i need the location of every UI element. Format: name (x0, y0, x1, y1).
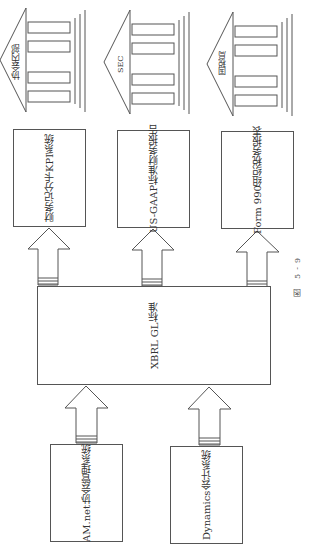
report-box-kpi: 财务记分卡 KPI系统 (13, 129, 86, 227)
institution-label-sec: SEC (113, 52, 127, 76)
hub-box-xbrl-gl: XBRL GL 标准 (37, 286, 271, 385)
report-line1: 财务记分卡 (43, 172, 56, 222)
arrow-icon-source1-to-hub (65, 386, 108, 443)
institution-label-association: 协会内部 (8, 42, 24, 82)
diagram: 协会内部 SEC 国税局 财务记分卡 KPI系统 US-GAAP 标准财务报告 … (0, 0, 313, 549)
institution-text: SEC (114, 55, 127, 72)
source-box-dynamics: Dynamics 会计系统 (170, 446, 243, 544)
hub-line1: XBRL GL (148, 322, 161, 368)
hub-line2: 标准 (148, 302, 161, 322)
institution-label-irs: 国税局 (216, 46, 230, 80)
report-box-usgaap: US-GAAP 标准财务报告 (117, 130, 190, 228)
report-box-form990: Form 990 组织税务报表 (221, 131, 294, 229)
diagram-shapes (0, 0, 313, 549)
figure-caption: 图 5-9 (292, 254, 303, 297)
arrow-icon-hub-to-report-2 (132, 229, 174, 286)
institution-text: 国税局 (217, 51, 230, 75)
report-line1: US-GAAP (147, 185, 160, 233)
source-line2: 协会管理系统 (80, 444, 93, 504)
source-box-amnet: AM.net 协会管理系统 (50, 444, 123, 542)
arrow-icon-hub-to-report-1 (28, 228, 70, 285)
report-line2: 组织税务报表 (251, 126, 264, 186)
report-line1: Form 990 (251, 186, 264, 235)
arrow-icon-source2-to-hub (188, 387, 231, 445)
source-line1: Dynamics (200, 490, 213, 539)
report-line2: KPI系统 (43, 134, 56, 172)
source-line2: 会计系统 (200, 450, 213, 490)
report-line2: 标准财务报告 (147, 125, 160, 185)
arrow-icon-hub-to-report-3 (236, 231, 279, 288)
source-line1: AM.net (80, 504, 93, 541)
institution-text: 协会内部 (10, 44, 23, 80)
